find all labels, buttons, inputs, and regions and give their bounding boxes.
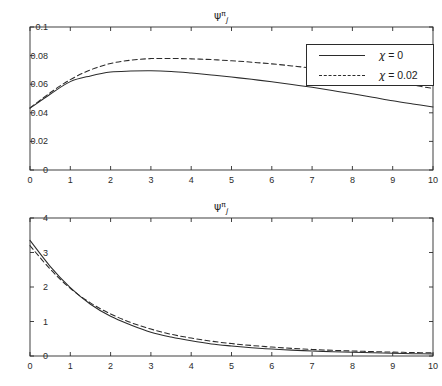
y-tick-label: 0.08 [25, 51, 48, 61]
x-tick-label: 10 [428, 361, 438, 371]
x-tick-label: 10 [428, 175, 438, 185]
series-line [30, 246, 433, 353]
chart-panel-bottom: ψπj χ = 0 χ = 0.02 01234567891001234 [0, 193, 442, 386]
y-tick-label: 0 [25, 165, 48, 175]
legend-entry-value: = 0.02 [385, 69, 417, 81]
x-tick-label: 1 [68, 361, 73, 371]
x-tick-label: 5 [229, 175, 234, 185]
x-tick-label: 3 [148, 361, 153, 371]
x-tick-label: 6 [269, 361, 274, 371]
y-tick-label: 3 [25, 248, 48, 258]
x-tick-label: 7 [310, 175, 315, 185]
x-tick-label: 8 [350, 175, 355, 185]
legend-entry-label: χ = 0.02 [379, 68, 418, 83]
plot-area-top [0, 0, 442, 196]
legend-entry-value: = 0 [385, 49, 403, 61]
x-tick-label: 3 [148, 175, 153, 185]
x-tick-label: 2 [108, 361, 113, 371]
legend-line-sample-solid [319, 55, 365, 57]
x-tick-label: 0 [27, 175, 32, 185]
y-tick-label: 0 [25, 351, 48, 361]
y-tick-label: 0.1 [25, 22, 48, 32]
chart-panel-top: ψπj χ = 0 χ = 0.02 01234567891000.020.04… [0, 0, 442, 196]
x-tick-label: 2 [108, 175, 113, 185]
legend-entry: χ = 0.02 [307, 65, 433, 86]
x-tick-label: 4 [189, 361, 194, 371]
x-tick-label: 7 [310, 361, 315, 371]
figure: ψπj χ = 0 χ = 0.02 01234567891000.020.04… [0, 0, 442, 386]
x-tick-label: 0 [27, 361, 32, 371]
x-tick-label: 5 [229, 361, 234, 371]
series-line [30, 240, 433, 354]
x-tick-label: 9 [390, 175, 395, 185]
x-tick-label: 1 [68, 175, 73, 185]
x-tick-label: 6 [269, 175, 274, 185]
y-tick-label: 4 [25, 213, 48, 223]
legend-entry-label: χ = 0 [379, 48, 403, 63]
y-tick-label: 0.02 [25, 136, 48, 146]
plot-area-bottom [0, 193, 442, 386]
y-tick-label: 0.04 [25, 108, 48, 118]
y-tick-label: 0.06 [25, 79, 48, 89]
y-tick-label: 1 [25, 317, 48, 327]
x-tick-label: 9 [390, 361, 395, 371]
legend-line-sample-dashed [319, 75, 365, 77]
x-tick-label: 8 [350, 361, 355, 371]
y-tick-label: 2 [25, 282, 48, 292]
x-tick-label: 4 [189, 175, 194, 185]
legend-entry: χ = 0 [307, 45, 433, 66]
legend-top: χ = 0 χ = 0.02 [306, 44, 434, 86]
